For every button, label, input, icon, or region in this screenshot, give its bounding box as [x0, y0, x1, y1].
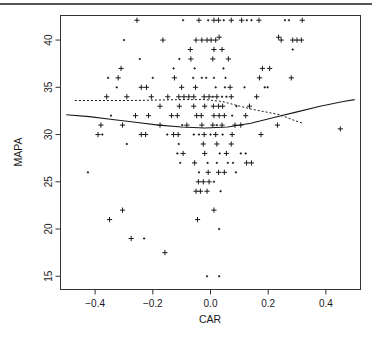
data-point — [214, 94, 219, 99]
x-axis-ticks — [95, 290, 326, 295]
data-point — [202, 94, 207, 99]
data-point — [206, 170, 211, 175]
data-point — [126, 143, 128, 145]
data-point — [235, 171, 237, 173]
data-point — [196, 179, 201, 184]
data-point — [133, 113, 138, 118]
data-point — [284, 19, 286, 21]
data-point — [182, 19, 184, 21]
data-point — [224, 77, 226, 79]
data-point — [215, 86, 217, 88]
data-point — [194, 113, 199, 118]
data-point — [218, 275, 220, 277]
data-point — [188, 56, 193, 61]
data-point — [123, 39, 125, 41]
data-point — [188, 47, 193, 52]
data-point — [176, 94, 181, 99]
data-point — [192, 77, 194, 79]
data-point — [180, 151, 185, 156]
data-point — [201, 77, 203, 79]
data-point — [239, 18, 244, 23]
data-point — [250, 19, 252, 21]
data-point — [143, 237, 145, 239]
data-point — [279, 37, 284, 42]
data-point — [186, 94, 191, 99]
scatter-points-layer — [87, 18, 343, 278]
data-point — [179, 162, 181, 164]
data-point — [243, 113, 248, 118]
data-point — [107, 77, 109, 79]
data-point — [275, 123, 280, 128]
data-point — [172, 67, 174, 69]
data-point — [139, 85, 144, 90]
y-tick-label: 35 — [43, 81, 54, 93]
data-point — [216, 18, 221, 23]
data-point — [198, 189, 203, 194]
data-point — [196, 18, 201, 23]
data-point — [204, 189, 209, 194]
data-point — [177, 104, 182, 109]
data-point — [202, 104, 207, 109]
data-point — [245, 152, 247, 154]
data-point — [101, 133, 103, 135]
data-point — [229, 18, 234, 23]
data-point — [169, 113, 174, 118]
data-point — [206, 94, 211, 99]
data-point — [246, 19, 248, 21]
data-point — [172, 75, 177, 80]
data-point — [104, 94, 109, 99]
data-point — [219, 47, 224, 52]
data-point — [264, 86, 266, 88]
data-point — [120, 208, 125, 213]
data-point — [221, 96, 223, 98]
data-point — [179, 85, 184, 90]
data-point — [201, 141, 206, 146]
data-point — [207, 19, 209, 21]
data-point — [149, 94, 154, 99]
data-point — [206, 275, 208, 277]
data-point — [116, 86, 118, 88]
scatterplot-svg: −0.4−0.20.00.20.4 152025303540 CAR MAPA — [0, 0, 372, 340]
data-point — [218, 228, 220, 230]
data-point — [192, 160, 197, 165]
data-point — [143, 132, 148, 137]
data-point — [267, 66, 272, 71]
fitted-curves-layer — [66, 100, 354, 128]
data-point — [166, 133, 168, 135]
data-point — [211, 47, 216, 52]
figure-root: −0.4−0.20.00.20.4 152025303540 CAR MAPA — [0, 0, 372, 340]
data-point — [222, 113, 227, 118]
data-point — [87, 171, 89, 173]
data-point — [226, 56, 231, 61]
data-point — [191, 104, 196, 109]
data-point — [216, 162, 218, 164]
data-point — [199, 37, 204, 42]
data-point — [231, 115, 233, 117]
data-point — [165, 94, 170, 99]
data-point — [213, 132, 218, 137]
data-point — [202, 151, 207, 156]
y-tick-label: 15 — [43, 270, 54, 282]
data-point — [144, 85, 149, 90]
data-point — [205, 77, 207, 79]
data-point — [157, 104, 162, 109]
data-point — [299, 37, 304, 42]
data-point — [176, 152, 178, 154]
data-point — [217, 113, 222, 118]
data-point — [217, 35, 222, 40]
y-tick-label: 20 — [43, 223, 54, 235]
data-point — [129, 236, 134, 241]
data-point — [222, 67, 224, 69]
data-point — [260, 66, 265, 71]
data-point — [191, 94, 196, 99]
data-point — [134, 18, 139, 23]
data-point — [216, 170, 221, 175]
y-axis-tick-labels: 152025303540 — [43, 34, 54, 282]
data-point — [213, 37, 218, 42]
data-point — [194, 67, 196, 69]
data-point — [229, 141, 234, 146]
data-point — [225, 96, 227, 98]
x-tick-label: 0.4 — [319, 298, 333, 309]
data-point — [289, 75, 294, 80]
data-point — [211, 104, 216, 109]
